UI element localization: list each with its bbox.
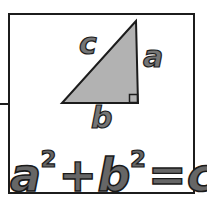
formula-base-a: a	[10, 148, 40, 202]
pythagorean-theorem-figure: c a b a2+b2=c2	[0, 0, 207, 206]
formula-term-b-squared: b2	[98, 148, 146, 202]
formula-exponent-b: 2	[130, 146, 146, 172]
pythagorean-formula: a2+b2=c2	[10, 148, 195, 198]
label-leg-a: a	[143, 42, 163, 72]
formula-equals-sign: =	[148, 148, 185, 202]
formula-plus-sign: +	[59, 148, 96, 202]
formula-term-c-squared: c2	[187, 148, 207, 202]
formula-term-a-squared: a2	[10, 148, 57, 202]
formula-base-b: b	[98, 148, 129, 202]
triangle-shape	[62, 21, 138, 103]
label-leg-b: b	[91, 103, 112, 133]
formula-base-c: c	[187, 148, 207, 202]
label-hypotenuse-c: c	[79, 29, 97, 59]
formula-exponent-a: 2	[41, 146, 57, 172]
